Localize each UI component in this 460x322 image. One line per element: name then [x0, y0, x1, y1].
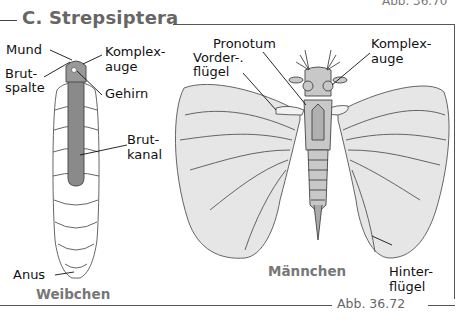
female-body [53, 61, 99, 278]
label-anus: Anus [13, 268, 45, 281]
label-komplexauge-male-2: auge [371, 52, 403, 65]
label-hinterfluegel-2: flügel [389, 280, 425, 293]
label-gehirn: Gehirn [105, 87, 148, 100]
label-maennchen: Männchen [268, 263, 346, 279]
label-weibchen: Weibchen [36, 286, 110, 302]
label-komplexauge-female-1: Komplex- [105, 45, 166, 58]
label-pronotum: Pronotum [213, 37, 276, 50]
label-vorderfluegel-1: Vorder-. [193, 51, 244, 64]
label-brutkanal-2: kanal [127, 148, 162, 161]
male-body [289, 50, 347, 240]
label-komplexauge-male-1: Komplex- [371, 37, 432, 50]
label-vorderfluegel-2: flügel [193, 65, 229, 78]
label-brutkanal-1: Brut- [127, 133, 159, 146]
label-brutspalte-1: Brut- [5, 67, 37, 80]
label-komplexauge-female-2: auge [105, 60, 137, 73]
label-mund: Mund [6, 43, 42, 56]
label-hinterfluegel-1: Hinter- [389, 265, 433, 278]
label-brutspalte-2: spalte [5, 81, 45, 94]
